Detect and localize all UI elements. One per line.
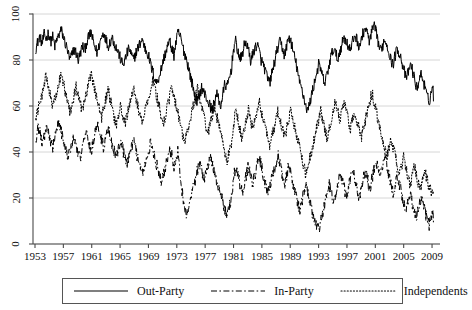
x-tick-label: 1961 bbox=[76, 250, 108, 262]
y-tick-label: 100 bbox=[2, 5, 28, 23]
x-tick-label: 1981 bbox=[218, 250, 250, 262]
legend-label: Out-Party bbox=[137, 284, 184, 299]
legend-item: Independents bbox=[340, 284, 472, 299]
series-line-independents bbox=[36, 71, 434, 197]
x-axis-ticks bbox=[35, 244, 432, 248]
y-axis-ticks bbox=[29, 14, 33, 244]
x-tick-label: 1973 bbox=[161, 250, 193, 262]
series-layer bbox=[36, 22, 434, 232]
x-tick-label: 2005 bbox=[388, 250, 420, 262]
legend-label: Independents bbox=[404, 284, 468, 299]
legend-item: Out-Party bbox=[73, 284, 210, 299]
x-tick-label: 1977 bbox=[189, 250, 221, 262]
y-tick-label: 20 bbox=[2, 189, 28, 207]
legend-line-sample-dotted bbox=[340, 286, 396, 296]
legend-item: In-Party bbox=[210, 284, 339, 299]
y-tick-label: 60 bbox=[2, 97, 28, 115]
series-line-in-party bbox=[36, 119, 434, 232]
legend-line-sample-dashdot bbox=[210, 286, 266, 296]
y-tick-label: 40 bbox=[2, 143, 28, 161]
x-tick-label: 1993 bbox=[303, 250, 335, 262]
x-tick-label: 2009 bbox=[416, 250, 448, 262]
legend-label: In-Party bbox=[274, 284, 313, 299]
x-tick-label: 1997 bbox=[331, 250, 363, 262]
legend-line-sample-solid bbox=[73, 286, 129, 296]
chart-legend: Out-PartyIn-PartyIndependents bbox=[62, 278, 403, 304]
series-line-out-party bbox=[36, 22, 434, 114]
x-tick-label: 1969 bbox=[132, 250, 164, 262]
x-tick-label: 1985 bbox=[246, 250, 278, 262]
y-tick-label: 80 bbox=[2, 51, 28, 69]
x-tick-label: 2001 bbox=[359, 250, 391, 262]
x-tick-label: 1989 bbox=[274, 250, 306, 262]
x-tick-label: 1953 bbox=[19, 250, 51, 262]
x-tick-label: 1957 bbox=[47, 250, 79, 262]
x-tick-label: 1965 bbox=[104, 250, 136, 262]
